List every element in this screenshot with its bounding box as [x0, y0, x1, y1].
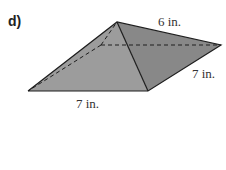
- dimension-label-right: 7 in.: [192, 66, 215, 82]
- pyramid-diagram: [0, 0, 226, 170]
- dimension-label-bottom: 7 in.: [76, 96, 99, 112]
- dimension-label-top: 6 in.: [158, 14, 181, 30]
